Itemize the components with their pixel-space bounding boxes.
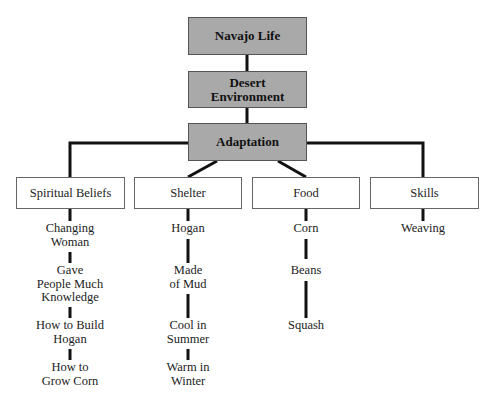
leaf-line: How to Build [36, 319, 104, 333]
connector-line [305, 239, 308, 259]
leaf-how-to-build-hogan: How to Build Hogan [36, 319, 104, 346]
category-label: Skills [410, 186, 439, 201]
connector-line [187, 239, 190, 263]
navajo-life-box: Navajo Life [188, 17, 307, 55]
desert-environment-label-line2: Environment [211, 90, 284, 104]
leaf-line: Weaving [401, 222, 445, 236]
connector-line [422, 209, 425, 221]
category-label: Food [293, 186, 319, 201]
leaf-squash: Squash [288, 319, 324, 333]
leaf-line: Winter [166, 375, 209, 389]
leaf-beans: Beans [291, 264, 322, 278]
desert-environment-box: Desert Environment [188, 71, 307, 108]
leaf-line: Squash [288, 319, 324, 333]
navajo-life-label: Navajo Life [215, 29, 280, 43]
leaf-line: Changing [46, 222, 95, 236]
leaf-line: People Much [37, 278, 103, 292]
leaf-line: Made [169, 264, 206, 278]
connector-line [187, 209, 190, 221]
connector-line [187, 349, 190, 360]
leaf-line: Hogan [171, 222, 204, 236]
connector-line [69, 252, 72, 263]
leaf-made-of-mud: Made of Mud [169, 264, 206, 291]
connector-line [69, 349, 72, 360]
adaptation-label: Adaptation [216, 135, 279, 149]
leaf-hogan: Hogan [171, 222, 204, 236]
leaf-line: Beans [291, 264, 322, 278]
leaf-line: Gave [37, 264, 103, 278]
adaptation-box: Adaptation [188, 123, 307, 161]
connector-line [187, 294, 190, 318]
leaf-weaving: Weaving [401, 222, 445, 236]
category-shelter: Shelter [134, 177, 242, 209]
leaf-line: of Mud [169, 278, 206, 292]
leaf-line: Knowledge [37, 291, 103, 305]
connector-line [305, 281, 308, 318]
leaf-corn: Corn [294, 222, 319, 236]
leaf-line: Cool in [167, 319, 209, 333]
leaf-cool-in-summer: Cool in Summer [167, 319, 209, 346]
category-label: Shelter [170, 186, 205, 201]
leaf-changing-woman: Changing Woman [46, 222, 95, 249]
leaf-line: Warm in [166, 361, 209, 375]
category-label: Spiritual Beliefs [30, 186, 112, 201]
connector-line [69, 209, 72, 221]
category-skills: Skills [370, 177, 479, 209]
leaf-line: Woman [46, 236, 95, 250]
leaf-warm-in-winter: Warm in Winter [166, 361, 209, 388]
desert-environment-label-line1: Desert [229, 76, 265, 90]
leaf-line: Corn [294, 222, 319, 236]
leaf-gave-people-much-knowledge: Gave People Much Knowledge [37, 264, 103, 305]
category-food: Food [252, 177, 360, 209]
leaf-line: Hogan [36, 333, 104, 347]
leaf-line: Summer [167, 333, 209, 347]
category-spiritual-beliefs: Spiritual Beliefs [16, 177, 125, 209]
connector-line [69, 307, 72, 318]
connector-line [305, 209, 308, 221]
leaf-line: Grow Corn [42, 375, 99, 389]
leaf-line: How to [42, 361, 99, 375]
leaf-how-to-grow-corn: How to Grow Corn [42, 361, 99, 388]
